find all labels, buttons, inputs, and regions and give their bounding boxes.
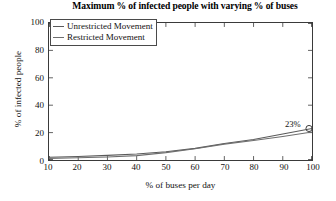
y-tick-20: 20	[4, 129, 44, 138]
x-tick-90: 90	[269, 163, 299, 172]
legend-entry-unrestricted-movement: Unrestricted Movement	[53, 21, 153, 32]
y-tick-60: 60	[4, 74, 44, 83]
y-tick-100: 100	[4, 18, 44, 27]
legend-label-unrestricted-movement: Unrestricted Movement	[67, 21, 153, 32]
y-tick-80: 80	[4, 46, 44, 55]
x-tick-10: 10	[33, 163, 63, 172]
x-tick-60: 60	[180, 163, 210, 172]
x-tick-30: 30	[92, 163, 122, 172]
legend-line-swatch-icon	[53, 26, 64, 27]
x-tick-20: 20	[62, 163, 92, 172]
legend-label-restricted-movement: Restricted Movement	[67, 32, 145, 43]
series-line-unrestricted-movement	[49, 128, 312, 157]
x-tick-100: 100	[298, 163, 328, 172]
chart-legend: Unrestricted Movement Restricted Movemen…	[50, 19, 157, 46]
x-tick-80: 80	[239, 163, 269, 172]
y-axis-label: % of infected people	[13, 19, 23, 159]
legend-line-swatch-icon	[53, 37, 64, 38]
legend-entry-restricted-movement: Restricted Movement	[53, 32, 153, 43]
annotation-label-23-percent: 23%	[285, 119, 301, 129]
chart-title: Maximum % of infected people with varyin…	[40, 0, 330, 12]
x-axis-label: % of buses per day	[48, 180, 313, 190]
x-tick-40: 40	[121, 163, 151, 172]
x-tick-50: 50	[151, 163, 181, 172]
chart-figure: Maximum % of infected people with varyin…	[0, 0, 336, 201]
x-tick-70: 70	[210, 163, 240, 172]
y-tick-40: 40	[4, 101, 44, 110]
